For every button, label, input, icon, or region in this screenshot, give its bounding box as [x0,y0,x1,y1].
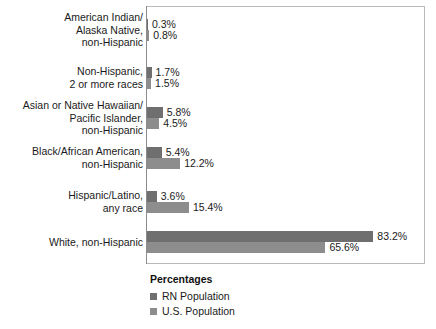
legend-item-us-population[interactable]: U.S. Population [150,304,350,319]
category-label: American Indian/ Alaska Native, non-Hisp… [0,11,143,49]
bar-fill [147,147,162,158]
bar-fill [147,19,148,30]
bar-rn-population[interactable] [147,19,148,30]
bar-value-label: 1.5% [155,77,179,90]
bar-fill [147,242,325,253]
bar-value-label: 4.5% [163,117,187,130]
bar-fill [147,118,159,129]
bar-rn-population[interactable] [147,67,152,78]
legend-label-us: U.S. Population [162,305,235,318]
bar-chart: American Indian/ Alaska Native, non-Hisp… [0,0,436,329]
bar-value-label: 3.6% [161,190,185,203]
bar-value-label: 65.6% [329,241,359,254]
bar-fill [147,78,151,89]
bar-us-population[interactable] [147,202,189,213]
bar-rn-population[interactable] [147,147,162,158]
bar-fill [147,30,149,41]
legend-label-rn: RN Population [162,290,230,303]
bar-fill [147,107,163,118]
bar-us-population[interactable] [147,118,159,129]
category-label: White, non-Hispanic [0,236,143,249]
bar-us-population[interactable] [147,158,180,169]
category-label: Hispanic/Latino, any race [0,189,143,214]
plot-area [146,6,425,264]
bar-value-label: 83.2% [377,230,407,243]
bar-rn-population[interactable] [147,191,157,202]
bar-us-population[interactable] [147,242,325,253]
legend-swatch-icon-us [150,308,157,315]
category-axis-line [146,6,147,264]
bar-value-label: 12.2% [184,157,214,170]
category-label: Asian or Native Hawaiian/ Pacific Island… [0,99,143,137]
bar-fill [147,202,189,213]
category-label: Black/African American, non-Hispanic [0,145,143,170]
bar-us-population[interactable] [147,30,149,41]
bar-value-label: 0.8% [153,29,177,42]
chart-legend: Percentages RN Population U.S. Populatio… [150,272,350,319]
bar-value-label: 15.4% [193,201,223,214]
bar-fill [147,67,152,78]
legend-swatch-icon-rn [150,293,157,300]
bar-fill [147,158,180,169]
category-label: Non-Hispanic, 2 or more races [0,65,143,90]
bar-rn-population[interactable] [147,107,163,118]
legend-title: Percentages [150,272,350,286]
bar-fill [147,191,157,202]
legend-item-rn-population[interactable]: RN Population [150,289,350,304]
bar-us-population[interactable] [147,78,151,89]
